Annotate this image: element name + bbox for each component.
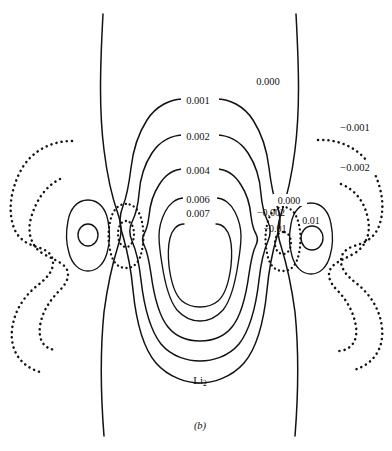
contour-left-nucleus-outer — [67, 200, 110, 271]
contour-level-0.007 — [168, 224, 231, 307]
contour-right-outer-negative-0.001 — [318, 140, 382, 370]
molecule-label: Li2 — [193, 374, 207, 388]
contour-label-0.01: 0.01 — [302, 216, 320, 226]
molecule-subscript: 2 — [203, 379, 207, 388]
panel-caption: (b) — [194, 420, 206, 431]
contour-left-nucleus-inner — [78, 224, 98, 246]
contour-label-0.002: 0.002 — [186, 132, 210, 143]
contour-zero-left — [101, 14, 122, 436]
contour-left-outer-negative-0.001 — [11, 141, 72, 372]
contour-label-0.007: 0.007 — [186, 209, 210, 220]
contour-left-outer-negative-0.002 — [29, 179, 68, 350]
contour-label-zero-top-right: 0.000 — [256, 77, 280, 88]
contour-label-0.001: 0.001 — [186, 96, 210, 107]
contour-label-negative-0.002-nucleus: −0.002 — [257, 208, 285, 218]
contour-label-0.004: 0.004 — [186, 166, 210, 177]
molecule-symbol: Li — [193, 374, 203, 386]
contour-right-outer-negative-0.002 — [329, 184, 369, 351]
contour-label-negative-0.01: −0.01 — [263, 224, 286, 234]
contour-label-0.006: 0.006 — [186, 195, 210, 206]
contour-right-nucleus-outer — [290, 203, 333, 274]
contour-label-negative-0.001: −0.001 — [340, 123, 370, 134]
contour-figure: 0.000 0.001 0.002 0.004 0.006 0.007 −0.0… — [0, 0, 392, 451]
contour-right-nucleus-inner — [301, 226, 323, 250]
contour-label-negative-0.002: −0.002 — [340, 163, 370, 174]
contour-label-zero-right-nucleus: 0.000 — [278, 196, 301, 206]
